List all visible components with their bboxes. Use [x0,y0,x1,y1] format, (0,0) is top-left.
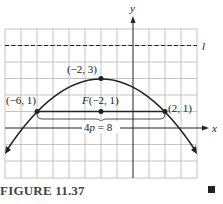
focus-point [99,109,104,114]
y-axis-arrow-icon [131,16,136,23]
left-point [35,109,40,114]
focus-coords: (−2, 1) [89,94,119,107]
y-axis-label: y [129,2,135,14]
directrix-label: l [202,40,205,52]
parabola-graph: y x l (−2, 3) (−6, 1) (2, 1) F(−2, 1) 4p… [0,0,223,204]
right-point-label: (2, 1) [168,102,192,115]
left-point-label: (−6, 1) [6,94,36,107]
vertex-label: (−2, 3) [67,63,97,76]
latus-label: 4p = 8 [84,121,113,133]
x-axis-arrow-icon [202,126,209,131]
end-mark-icon [208,186,215,193]
figure-caption: FIGURE 11.37 [0,183,85,199]
x-axis-label: x [211,122,217,134]
focus-label: F(−2, 1) [81,94,119,107]
right-point [163,109,168,114]
vertex-point [99,76,104,81]
